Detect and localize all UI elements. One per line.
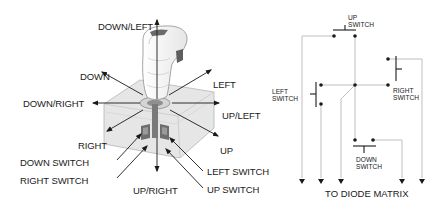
label-down-switch: DOWN SWITCH — [20, 158, 89, 168]
contact-points — [319, 34, 390, 142]
output-arrow-2 — [318, 179, 324, 184]
output-arrow-3 — [338, 179, 344, 184]
down-switch-symbol — [353, 146, 376, 153]
right-switch-symbol — [396, 56, 402, 81]
up-switch-label: UP SWITCH — [348, 15, 374, 29]
thumb-button — [176, 49, 183, 63]
circuit-arrows — [299, 179, 425, 184]
output-arrow-5 — [419, 179, 425, 184]
label-down-left: DOWN/LEFT — [98, 22, 153, 32]
label-down: DOWN — [80, 72, 110, 82]
output-arrow-1 — [299, 179, 305, 184]
shaft — [152, 104, 158, 138]
left-switch-symbol — [310, 82, 316, 107]
left-switch-label: LEFT SWITCH — [272, 89, 298, 103]
label-left: LEFT — [213, 80, 236, 90]
right-switch-label: RIGHT SWITCH — [393, 88, 419, 102]
diode-matrix-label: TO DIODE MATRIX — [325, 189, 409, 199]
label-left-switch: LEFT SWITCH — [207, 167, 269, 177]
label-right-switch: RIGHT SWITCH — [20, 176, 88, 186]
label-down-right: DOWN/RIGHT — [23, 99, 84, 109]
label-right: RIGHT — [78, 141, 107, 151]
label-up-switch: UP SWITCH — [207, 185, 259, 195]
output-arrow-4 — [399, 179, 405, 184]
label-up: UP — [220, 146, 233, 156]
label-up-right: UP/RIGHT — [133, 186, 178, 196]
down-switch-label: DOWN SWITCH — [356, 157, 382, 171]
label-up-left: UP/LEFT — [222, 111, 260, 121]
